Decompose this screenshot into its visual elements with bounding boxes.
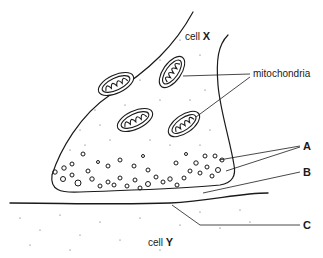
cell-x-prefix: cell (185, 31, 200, 42)
label-b: B (303, 166, 311, 178)
leader-a-2 (226, 147, 300, 171)
leader-mitochondria-1 (183, 74, 250, 76)
cell-y-prefix: cell (148, 237, 163, 248)
label-a: A (303, 140, 311, 152)
cell-y-label: cell Y (148, 236, 173, 248)
cell-x-label: cell X (185, 30, 210, 42)
cell-y-stipple (19, 209, 250, 250)
cell-y-membrane (10, 193, 268, 204)
label-c: C (303, 219, 311, 231)
synaptic-vesicles (53, 152, 224, 190)
leader-c (172, 205, 300, 225)
mitochondria-label: mitochondria (253, 68, 310, 79)
cell-y-letter: Y (166, 236, 173, 248)
leader-mitochondria-2 (196, 77, 250, 117)
leader-b (203, 172, 300, 193)
synapse-diagram (0, 0, 323, 258)
cytoplasm-stipple (69, 39, 210, 150)
cell-x-letter: X (203, 30, 210, 42)
